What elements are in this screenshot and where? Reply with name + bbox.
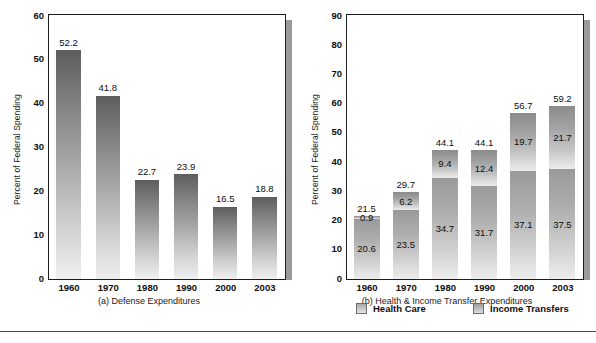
- x-tick-label: 1960: [59, 282, 80, 293]
- y-tick-label: 60: [22, 11, 44, 21]
- bar-value-label: 41.8: [99, 83, 118, 93]
- y-tick-label: 90: [320, 11, 342, 21]
- y-tick-label: 80: [320, 40, 342, 50]
- y-tick-label: 70: [320, 69, 342, 79]
- bar-total-label: 44.1: [475, 138, 494, 148]
- x-tick-label: 1970: [98, 282, 119, 293]
- segment-value-income-transfers: 6.2: [399, 197, 412, 207]
- segment-value-health-care: 31.7: [475, 228, 494, 238]
- panel-b-plot-frame: 20.60.921.523.56.229.734.79.444.131.712.…: [346, 14, 584, 280]
- legend-item-income[interactable]: Income Transfers: [473, 303, 569, 314]
- x-tick-label: 2003: [552, 282, 573, 293]
- bar-total-label: 59.2: [553, 94, 572, 104]
- segment-value-health-care: 23.5: [397, 240, 416, 250]
- bar-total-label: 44.1: [436, 138, 455, 148]
- x-tick-label: 2000: [513, 282, 534, 293]
- legend-item-health[interactable]: Health Care: [356, 303, 426, 314]
- y-tick-label: 10: [22, 230, 44, 240]
- bar-stack-1980: [432, 150, 458, 279]
- bar-total-label: 21.5: [357, 204, 376, 214]
- y-tick-label: 50: [22, 55, 44, 65]
- bottom-divider-rule: [0, 331, 596, 332]
- panel-b-health-income-transfer-expenditures: Percent of Federal Spending 20.60.921.52…: [298, 0, 596, 320]
- bar-defense-1980: [135, 180, 159, 280]
- x-tick-label: 2003: [254, 282, 275, 293]
- bar-defense-2000: [213, 207, 237, 279]
- y-tick-label: 0: [320, 274, 342, 284]
- x-tick-label: 1970: [396, 282, 417, 293]
- panel-a-plot-frame: 52.241.822.723.916.518.8: [48, 14, 286, 280]
- segment-value-health-care: 34.7: [436, 224, 455, 234]
- legend: Health CareIncome Transfers: [298, 303, 596, 323]
- x-tick-label: 1990: [474, 282, 495, 293]
- y-tick-label: 30: [320, 186, 342, 196]
- x-tick-label: 2000: [215, 282, 236, 293]
- y-tick-label: 30: [22, 142, 44, 152]
- x-tick-label: 1960: [357, 282, 378, 293]
- bar-value-label: 22.7: [138, 167, 157, 177]
- panel-a-defense-expenditures: Percent of Federal Spending 52.241.822.7…: [0, 0, 298, 320]
- bar-defense-2003: [252, 197, 276, 279]
- segment-value-health-care: 37.5: [553, 219, 572, 229]
- y-tick-label: 10: [320, 245, 342, 255]
- bar-total-label: 56.7: [514, 101, 533, 111]
- legend-swatch-icon: [356, 303, 367, 314]
- bar-value-label: 18.8: [255, 184, 274, 194]
- bar-value-label: 52.2: [59, 38, 78, 48]
- panel-a-caption: (a) Defense Expenditures: [0, 296, 298, 306]
- y-tick-label: 20: [320, 215, 342, 225]
- figure-two-panel-bar-charts: Percent of Federal Spending 52.241.822.7…: [0, 0, 596, 343]
- segment-value-health-care: 20.6: [357, 244, 376, 254]
- segment-value-income-transfers: 9.4: [438, 159, 451, 169]
- x-tick-label: 1990: [176, 282, 197, 293]
- segment-value-health-care: 37.1: [514, 220, 533, 230]
- y-tick-label: 20: [22, 186, 44, 196]
- x-tick-label: 1980: [435, 282, 456, 293]
- panel-b-frame-border: 20.60.921.523.56.229.734.79.444.131.712.…: [346, 14, 584, 280]
- segment-value-income-transfers: 19.7: [514, 137, 533, 147]
- y-tick-label: 60: [320, 98, 342, 108]
- bar-defense-1970: [96, 96, 120, 279]
- y-tick-label: 50: [320, 128, 342, 138]
- legend-label: Health Care: [373, 303, 426, 314]
- bar-defense-1990: [174, 174, 198, 279]
- y-tick-label: 40: [22, 98, 44, 108]
- y-tick-label: 40: [320, 157, 342, 167]
- panel-a-plot-area: 52.241.822.723.916.518.8: [49, 15, 285, 279]
- segment-value-income-transfers: 21.7: [553, 133, 572, 143]
- segment-value-income-transfers: 12.4: [475, 164, 494, 174]
- bar-value-label: 23.9: [177, 162, 196, 172]
- panel-b-plot-area: 20.60.921.523.56.229.734.79.444.131.712.…: [347, 15, 583, 279]
- segment-value-income-transfers: 0.9: [360, 213, 373, 223]
- bar-value-label: 16.5: [216, 194, 235, 204]
- bar-total-label: 29.7: [397, 180, 416, 190]
- x-tick-label: 1980: [137, 282, 158, 293]
- legend-label: Income Transfers: [490, 303, 569, 314]
- legend-swatch-icon: [473, 303, 484, 314]
- y-tick-label: 0: [22, 274, 44, 284]
- panel-a-frame-border: 52.241.822.723.916.518.8: [48, 14, 286, 280]
- bar-defense-1960: [56, 50, 80, 279]
